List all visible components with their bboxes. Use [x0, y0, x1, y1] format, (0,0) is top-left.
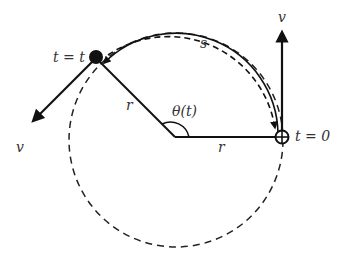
start-position-marker — [276, 131, 289, 144]
velocity-arrow-current — [36, 60, 94, 118]
angle-arc — [162, 122, 189, 137]
label-current-time: t = t — [53, 49, 85, 65]
current-position-dot — [89, 50, 103, 64]
label-velocity-current: v — [16, 139, 24, 155]
label-start-time: t = 0 — [295, 128, 330, 144]
label-radius-current: r — [126, 97, 134, 113]
label-arc-length: s — [200, 35, 207, 51]
radius-line-current — [96, 58, 175, 137]
label-radius-start: r — [218, 139, 226, 155]
circular-motion-diagram: t = t t = 0 r r θ(t) s v v — [0, 0, 344, 255]
label-velocity-start: v — [278, 9, 286, 25]
label-angle: θ(t) — [172, 103, 197, 119]
